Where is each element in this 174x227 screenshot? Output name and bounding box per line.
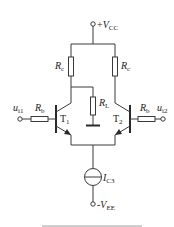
svg-text:Rb: Rb [139, 102, 150, 115]
rb-left-symbol: R [34, 102, 41, 113]
caption-truncated [42, 225, 142, 227]
ui1-subscript: i1 [18, 107, 24, 115]
ui2-subscript: i2 [162, 107, 168, 115]
resistor-rb-right [138, 117, 155, 122]
resistor-rb-left [31, 117, 48, 122]
transistor-t1: T1 [56, 103, 71, 145]
rc-left-symbol: R [54, 60, 61, 71]
vcc-terminal: +VCC [91, 19, 119, 44]
rc-left-subscript: c [61, 65, 64, 73]
svg-text:-VEE: -VEE [97, 199, 115, 212]
svg-text:T2: T2 [113, 113, 123, 126]
svg-text:T1: T1 [60, 113, 70, 126]
transistor-t2: T2 [113, 103, 130, 145]
t2-subscript: 2 [119, 118, 123, 126]
svg-text:Rc: Rc [54, 60, 64, 73]
rc-right-subscript: c [127, 65, 130, 73]
resistor-rc-left: Rc [54, 44, 74, 103]
svg-text:IC3: IC3 [102, 172, 115, 185]
rb-left-subscript: b [41, 107, 45, 115]
ui1-terminal [18, 117, 22, 121]
svg-text:Rc: Rc [120, 60, 130, 73]
rc-right-symbol: R [120, 60, 127, 71]
differential-amplifier-circuit: +VCC Rc Rc RL [0, 0, 174, 227]
vee-subscript: EE [106, 204, 115, 212]
input-right: Rb ui2 [130, 102, 168, 122]
vcc-subscript: CC [109, 24, 119, 32]
ui2-terminal [161, 117, 165, 121]
rl-symbol: R [98, 97, 105, 108]
t1-subscript: 1 [66, 118, 70, 126]
svg-text:Rb: Rb [34, 102, 45, 115]
current-source-ic3: IC3 [85, 169, 116, 203]
rb-right-symbol: R [139, 102, 146, 113]
resistor-rl-load: RL [71, 87, 109, 126]
rb-right-subscript: b [146, 107, 150, 115]
svg-text:RL: RL [98, 97, 109, 110]
svg-text:+VCC: +VCC [97, 19, 118, 32]
vee-terminal: -VEE [91, 199, 115, 212]
svg-text:ui2: ui2 [157, 102, 168, 115]
ic3-subscript: C3 [106, 177, 115, 185]
resistor-rc-right: Rc [113, 44, 131, 103]
rl-subscript: L [105, 102, 109, 110]
svg-text:ui1: ui1 [13, 102, 24, 115]
input-left: ui1 Rb [13, 102, 56, 122]
